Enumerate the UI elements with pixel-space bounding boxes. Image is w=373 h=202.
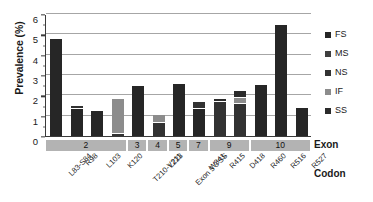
bar-stack[interactable] <box>50 39 62 136</box>
exon-group-cell: 10 <box>250 140 311 151</box>
exon-group-cell: 9 <box>209 140 250 151</box>
legend-label: IF <box>335 87 343 96</box>
bar-stack[interactable] <box>193 102 205 136</box>
bar-slot <box>87 15 107 136</box>
bar-slot <box>169 15 189 136</box>
legend-item[interactable]: SS <box>325 101 371 120</box>
legend-swatch-icon <box>325 51 331 57</box>
bar-slot <box>271 15 291 136</box>
bar-segment-fs <box>50 39 62 136</box>
exon-group-cell: 3 <box>127 140 147 151</box>
bar-slot <box>251 15 271 136</box>
bar-stack[interactable] <box>214 99 226 136</box>
exon-row-label: Exon <box>314 139 338 151</box>
bar-segment-ns <box>234 104 246 136</box>
bar-segment-if <box>112 99 124 134</box>
bar-slot <box>46 15 66 136</box>
bar-slot <box>189 15 209 136</box>
bar-slot <box>128 15 148 136</box>
codon-labels: L83-S84R98L103K120T210-V211L223Exon 5 3'… <box>45 152 311 202</box>
bars-layer <box>46 15 311 136</box>
bar-stack[interactable] <box>112 99 124 136</box>
legend-swatch-icon <box>325 32 331 38</box>
bar-stack[interactable] <box>153 115 165 136</box>
legend-label: MS <box>335 49 349 58</box>
bar-segment-fs <box>193 109 205 136</box>
bar-stack[interactable] <box>255 85 267 136</box>
bar-segment-fs <box>132 86 144 136</box>
bar-segment-if <box>153 115 165 124</box>
exon-group-cell: 7 <box>188 140 208 151</box>
bar-segment-fs <box>71 109 83 136</box>
legend-label: FS <box>335 30 347 39</box>
legend-label: NS <box>335 68 348 77</box>
bar-stack[interactable] <box>91 111 103 136</box>
legend-item[interactable]: MS <box>325 44 371 63</box>
bar-stack[interactable] <box>275 25 287 136</box>
y-axis-ticks: 0123456 <box>0 15 45 137</box>
codon-tick-label: R415 <box>228 152 246 170</box>
bar-slot <box>148 15 168 136</box>
legend-swatch-icon <box>325 70 331 76</box>
codon-tick-label: L103 <box>105 152 122 169</box>
bar-segment-fs <box>91 111 103 136</box>
codon-row-label: Codon <box>314 168 346 180</box>
bar-stack[interactable] <box>132 86 144 136</box>
legend-swatch-icon <box>325 108 331 114</box>
codon-tick-label: R516 <box>290 152 308 170</box>
legend-swatch-icon <box>325 89 331 95</box>
legend-label: SS <box>335 106 347 115</box>
bar-slot <box>210 15 230 136</box>
prevalence-bar-chart: Prevalence (%) 0123456 23457910 Exon Cod… <box>0 0 373 202</box>
legend-item[interactable]: FS <box>325 25 371 44</box>
bar-segment-fs <box>173 84 185 136</box>
bar-segment-fs <box>296 108 308 136</box>
legend-item[interactable]: IF <box>325 82 371 101</box>
codon-tick-label: L223 <box>166 152 183 169</box>
exon-group-cell: 5 <box>168 140 188 151</box>
bar-slot <box>230 15 250 136</box>
bar-segment-fs <box>275 25 287 136</box>
bar-slot <box>107 15 127 136</box>
legend-item[interactable]: NS <box>325 63 371 82</box>
exon-group-cell: 2 <box>45 140 127 151</box>
codon-tick-label: R460 <box>269 152 287 170</box>
exon-group-cell: 4 <box>147 140 167 151</box>
bar-stack[interactable] <box>296 108 308 136</box>
bar-segment-ns <box>112 134 124 136</box>
exon-band: 23457910 <box>45 140 311 151</box>
bar-slot <box>292 15 312 136</box>
bar-segment-ns <box>214 102 226 136</box>
bar-stack[interactable] <box>173 84 185 136</box>
bar-slot <box>66 15 86 136</box>
codon-tick-label: K120 <box>126 152 144 170</box>
chart-legend: FSMSNSIFSS <box>325 25 371 120</box>
gridline <box>46 13 311 14</box>
bar-segment-fs <box>255 85 267 136</box>
codon-tick-label: D418 <box>249 152 267 170</box>
plot-area <box>45 15 311 137</box>
bar-stack[interactable] <box>234 91 246 136</box>
bar-segment-ns <box>153 123 165 136</box>
bar-stack[interactable] <box>71 106 83 136</box>
